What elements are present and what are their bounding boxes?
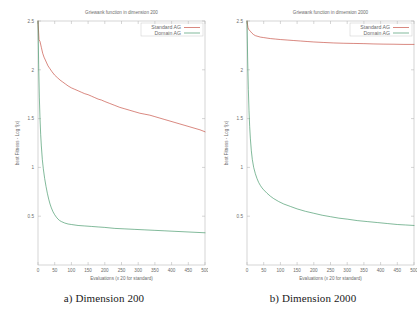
x-axis-tick-label: 150	[293, 268, 301, 273]
x-axis-tick-label: 250	[118, 268, 126, 273]
series-line-standard-ag	[38, 21, 205, 132]
x-axis-title: Evaluations (x 20 for standard)	[90, 276, 153, 281]
x-axis-tick-label: 100	[68, 268, 76, 273]
x-axis-tick-label: 200	[310, 268, 318, 273]
x-axis-title: Evaluations (x 20 for standard)	[299, 276, 362, 281]
x-axis-tick-label: 150	[84, 268, 92, 273]
y-axis-tick-label: 1	[31, 165, 34, 170]
caption-dimension-200: a) Dimension 200	[0, 292, 208, 304]
x-axis-tick-label: 400	[168, 268, 176, 273]
y-axis-tick-label: 0.5	[28, 214, 35, 219]
x-axis-tick-label: 350	[360, 268, 368, 273]
x-axis-tick-label: 450	[393, 268, 401, 273]
caption-dimension-2000: b) Dimension 2000	[209, 292, 417, 304]
x-axis-tick-label: 0	[37, 268, 40, 273]
x-axis-tick-label: 250	[327, 268, 335, 273]
x-axis-tick-label: 200	[101, 268, 109, 273]
x-axis-tick-label: 300	[343, 268, 351, 273]
y-axis-tick-label: 1.5	[237, 116, 244, 121]
series-line-domain-ag	[38, 21, 205, 233]
plot-frame	[38, 21, 205, 265]
y-axis-tick-label: 1.5	[28, 116, 35, 121]
x-axis-tick-label: 50	[261, 268, 267, 273]
series-line-domain-ag	[247, 21, 414, 225]
plot-frame	[247, 21, 414, 265]
legend-label-domain-ag: Domain AG	[363, 30, 390, 36]
legend-label-domain-ag: Domain AG	[154, 30, 181, 36]
y-axis-tick-label: 2	[240, 68, 243, 73]
chart-panel-dimension-2000: Griewank function in dimension 200005010…	[209, 0, 417, 300]
y-axis-title: best Fitness - Log f(x)	[224, 120, 229, 165]
y-axis-title: best Fitness - Log f(x)	[15, 120, 20, 165]
figure-container: Griewank function in dimension 200050100…	[0, 0, 417, 328]
x-axis-tick-label: 50	[52, 268, 58, 273]
y-axis-tick-label: 2	[31, 68, 34, 73]
y-axis-tick-label: 0.5	[237, 214, 244, 219]
x-axis-tick-label: 100	[277, 268, 285, 273]
x-axis-tick-label: 400	[377, 268, 385, 273]
chart-title: Griewank function in dimension 2000	[293, 10, 369, 15]
chart-svg-dimension-200: Griewank function in dimension 200050100…	[0, 0, 208, 300]
y-axis-tick-label: 2.5	[237, 19, 244, 24]
chart-panel-dimension-200: Griewank function in dimension 200050100…	[0, 0, 208, 300]
x-axis-tick-label: 350	[151, 268, 159, 273]
x-axis-tick-label: 300	[134, 268, 142, 273]
chart-svg-dimension-2000: Griewank function in dimension 200005010…	[209, 0, 417, 300]
chart-title: Griewank function in dimension 200	[85, 10, 158, 15]
x-axis-tick-label: 500	[410, 268, 417, 273]
y-axis-tick-label: 1	[240, 165, 243, 170]
x-axis-tick-label: 450	[184, 268, 192, 273]
y-axis-tick-label: 2.5	[28, 19, 35, 24]
x-axis-tick-label: 500	[201, 268, 208, 273]
x-axis-tick-label: 0	[246, 268, 249, 273]
